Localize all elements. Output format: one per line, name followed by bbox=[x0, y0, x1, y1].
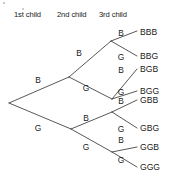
column-header-col3: 3rd child bbox=[99, 10, 127, 19]
image-noise-specks bbox=[3, 2, 24, 10]
final-outcome-labels: BBBBBGBGBBGGGBBGBGGGBGGG bbox=[140, 27, 160, 172]
outcome-bbg: BBG bbox=[140, 51, 158, 61]
branch-label-l2-gb: B bbox=[83, 113, 89, 123]
edge-g-gg bbox=[71, 129, 112, 152]
branch-outcome-letters: BGBGBGBGBGBGBG bbox=[35, 28, 125, 165]
branch-label-l3-bbb: B bbox=[118, 28, 124, 38]
edge-gg-ggg bbox=[112, 152, 137, 167]
edge-g-gb bbox=[71, 112, 112, 129]
outcome-bgb: BGB bbox=[140, 64, 158, 74]
probability-tree-figure: 1st child2nd child3rd child BGBGBGBGBGBG… bbox=[0, 0, 169, 181]
edge-gg-ggb bbox=[112, 147, 137, 152]
branch-label-l3-bbg: G bbox=[118, 52, 125, 62]
branch-label-l3-ggg: G bbox=[118, 155, 125, 165]
column-header-col1: 1st child bbox=[14, 10, 41, 19]
column-header-col2: 2nd child bbox=[57, 10, 87, 19]
branch-label-l1-b: B bbox=[35, 75, 41, 85]
edge-gb-gbb bbox=[112, 100, 137, 112]
branch-label-l2-bb: B bbox=[76, 48, 82, 58]
tree-diagram-canvas: 1st child2nd child3rd child BGBGBGBGBGBG… bbox=[0, 0, 169, 181]
branch-label-l2-gg: G bbox=[83, 142, 90, 152]
branch-label-l3-ggb: B bbox=[118, 135, 124, 145]
outcome-ggb: GGB bbox=[140, 142, 159, 152]
branch-label-l2-bg: G bbox=[83, 83, 90, 93]
outcome-gbb: GBB bbox=[140, 95, 158, 105]
edge-b-bb bbox=[69, 41, 111, 77]
edge-bg-bgb bbox=[112, 69, 137, 99]
column-headers: 1st child2nd child3rd child bbox=[14, 10, 127, 19]
noise-speck bbox=[3, 2, 5, 4]
branch-label-l3-gbb: B bbox=[118, 96, 124, 106]
outcome-gbg: GBG bbox=[140, 123, 159, 133]
edge-b-bg bbox=[69, 77, 112, 99]
branch-label-l3-gbg: G bbox=[118, 124, 125, 134]
branch-label-l1-g: G bbox=[35, 123, 42, 133]
branch-label-l3-bgb: B bbox=[118, 65, 124, 75]
edge-gb-gbg bbox=[112, 112, 137, 128]
outcome-ggg: GGG bbox=[140, 162, 160, 172]
outcome-bbb: BBB bbox=[140, 27, 157, 37]
edge-bb-bbb bbox=[111, 31, 137, 41]
